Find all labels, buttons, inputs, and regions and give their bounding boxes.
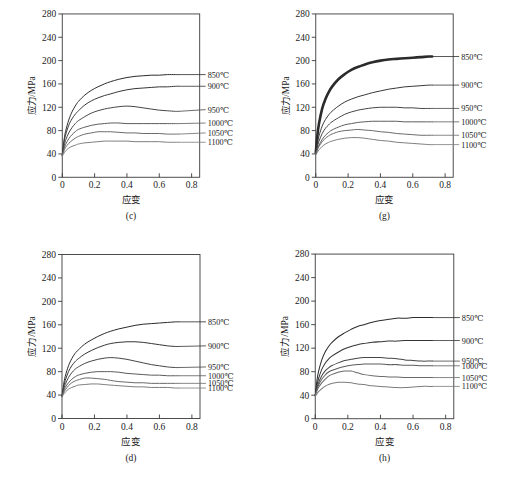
x-tick-label: 0	[60, 180, 65, 190]
chart-panel-c: 0408012016020024028000.20.40.60.8850℃900…	[0, 0, 253, 240]
series-label-1100℃: 1100℃	[208, 138, 233, 147]
data-curves	[315, 318, 432, 397]
x-tick-label: 0	[313, 422, 318, 432]
series-label-1100℃: 1100℃	[461, 141, 486, 150]
y-tick-label: 120	[42, 344, 57, 354]
y-tick-label: 0	[51, 414, 56, 424]
plot-area: 0408012016020024028000.20.40.60.8850℃900…	[253, 240, 507, 482]
x-axis-title: 应变	[122, 194, 141, 205]
x-tick-label: 0.6	[153, 422, 165, 432]
series-label-850℃: 850℃	[462, 314, 484, 323]
series-label-900℃: 900℃	[462, 337, 484, 346]
x-tick-label: 0.4	[375, 180, 387, 190]
series-label-1050℃: 1050℃	[208, 129, 233, 138]
y-tick-label: 280	[42, 250, 57, 260]
y-axis-title: 应力/MPa	[26, 315, 37, 356]
y-tick-label: 200	[295, 296, 310, 306]
data-curves	[62, 322, 179, 397]
curve-850℃	[316, 56, 432, 152]
axis-frame	[62, 255, 200, 419]
y-tick-label: 240	[295, 273, 310, 283]
curve-1000℃	[62, 123, 178, 155]
y-tick-label: 240	[42, 273, 57, 283]
series-labels: 850℃900℃950℃1000℃1050℃1100℃	[432, 53, 486, 150]
x-tick-label: 0.4	[374, 422, 386, 432]
y-tick-label: 40	[47, 149, 57, 159]
y-tick-label: 0	[52, 173, 57, 183]
y-tick-label: 160	[42, 79, 56, 89]
curve-1100℃	[62, 384, 179, 397]
y-tick-label: 40	[300, 149, 310, 159]
y-tick-label: 120	[295, 343, 310, 353]
series-label-950℃: 950℃	[461, 104, 482, 113]
x-tick-label: 0.2	[342, 180, 354, 190]
plot-area: 0408012016020024028000.20.40.60.8850℃900…	[0, 0, 253, 240]
curve-900℃	[62, 86, 178, 155]
x-tick-label: 0.2	[89, 180, 101, 190]
x-tick-label: 0.4	[121, 180, 133, 190]
y-axis-title: 应力/MPa	[279, 315, 290, 356]
x-tick-label: 0.8	[440, 422, 452, 432]
x-axis-ticks: 00.20.40.60.8	[60, 415, 198, 432]
x-tick-label: 0.2	[89, 422, 101, 432]
x-axis-ticks: 00.20.40.60.8	[313, 173, 451, 190]
x-tick-label: 0	[313, 180, 318, 190]
axis-frame	[316, 14, 453, 177]
y-tick-label: 160	[296, 79, 310, 89]
y-tick-label: 80	[300, 126, 310, 136]
x-tick-label: 0.8	[186, 422, 198, 432]
series-labels: 850℃900℃950℃1000℃1050℃1100℃	[179, 71, 233, 148]
plot-area: 0408012016020024028000.20.40.60.8850℃900…	[253, 0, 507, 240]
x-tick-label: 0.2	[342, 422, 354, 432]
y-tick-label: 280	[42, 9, 56, 19]
y-tick-label: 280	[295, 249, 310, 259]
x-axis-ticks: 00.20.40.60.8	[60, 173, 198, 190]
series-label-850℃: 850℃	[461, 53, 482, 62]
x-tick-label: 0.6	[407, 180, 419, 190]
series-label-1100℃: 1100℃	[208, 384, 233, 393]
curve-1100℃	[62, 141, 178, 156]
y-tick-label: 280	[296, 9, 310, 19]
y-tick-label: 120	[42, 103, 56, 113]
panel-label: (d)	[125, 453, 136, 464]
y-tick-label: 40	[47, 390, 57, 400]
panel-label: (h)	[379, 453, 390, 464]
y-tick-label: 0	[304, 414, 309, 424]
curve-950℃	[62, 106, 178, 155]
curve-1000℃	[315, 364, 432, 395]
y-tick-label: 200	[296, 56, 310, 66]
x-tick-label: 0	[60, 422, 65, 432]
curve-1000℃	[62, 372, 179, 397]
curve-900℃	[62, 342, 179, 397]
curve-1000℃	[316, 121, 432, 154]
axis-frame	[315, 254, 454, 419]
series-label-900℃: 900℃	[208, 82, 229, 91]
y-tick-label: 200	[42, 297, 57, 307]
y-tick-label: 240	[42, 33, 56, 43]
y-axis-title: 应力/MPa	[26, 76, 37, 115]
series-label-1000℃: 1000℃	[208, 119, 233, 128]
x-axis-title: 应变	[375, 194, 394, 205]
series-label-1000℃: 1000℃	[462, 362, 488, 371]
y-axis-ticks: 04080120160200240280	[296, 9, 316, 182]
series-label-1000℃: 1000℃	[461, 118, 486, 127]
x-tick-label: 0.8	[439, 180, 451, 190]
y-tick-label: 160	[295, 320, 310, 330]
series-label-1050℃: 1050℃	[461, 131, 486, 140]
chart-panel-d: 0408012016020024028000.20.40.60.8850℃900…	[0, 240, 253, 482]
y-tick-label: 80	[47, 126, 57, 136]
x-tick-label: 0.6	[153, 180, 165, 190]
x-axis-ticks: 00.20.40.60.8	[313, 415, 452, 432]
curve-1100℃	[316, 138, 432, 156]
panel-label: (g)	[379, 211, 390, 222]
series-label-950℃: 950℃	[208, 106, 229, 115]
chart-panel-h: 0408012016020024028000.20.40.60.8850℃900…	[253, 240, 507, 482]
axis-frame	[62, 14, 199, 177]
y-tick-label: 40	[300, 391, 310, 401]
y-tick-label: 120	[296, 103, 310, 113]
series-label-850℃: 850℃	[208, 318, 229, 327]
y-tick-label: 200	[42, 56, 56, 66]
y-tick-label: 0	[305, 173, 310, 183]
plot-area: 0408012016020024028000.20.40.60.8850℃900…	[0, 240, 253, 482]
y-axis-ticks: 04080120160200240280	[42, 250, 62, 424]
